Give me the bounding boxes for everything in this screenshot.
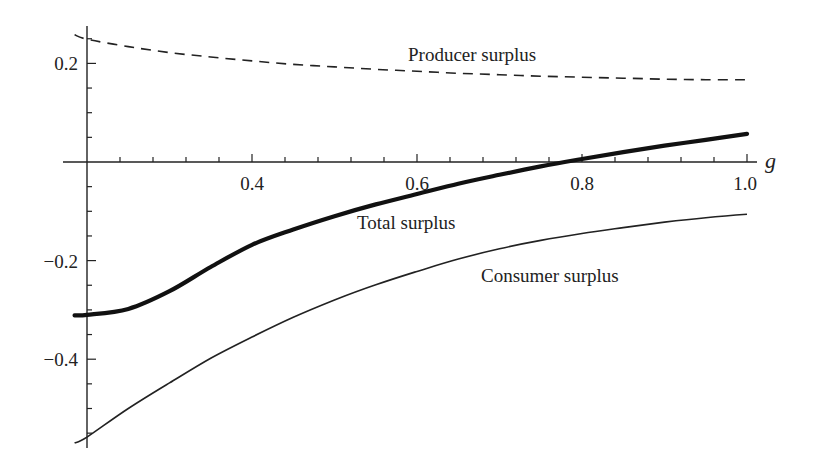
y-tick-label-neg-0.4: −0.4 — [44, 349, 79, 370]
y-tick-label-0.2: 0.2 — [54, 53, 78, 74]
curves — [75, 35, 747, 443]
x-axis-label: g — [765, 148, 776, 173]
surplus-chart: 0.4 0.6 0.8 1.0 g 0.2 −0.2 −0.4 Producer… — [0, 0, 821, 468]
chart-canvas: 0.4 0.6 0.8 1.0 g 0.2 −0.2 −0.4 Producer… — [0, 0, 821, 468]
producer-surplus-label: Producer surplus — [408, 44, 536, 65]
total-surplus-label: Total surplus — [357, 212, 455, 233]
consumer-surplus-label: Consumer surplus — [481, 265, 619, 286]
x-tick-label-0.4: 0.4 — [240, 173, 264, 194]
consumer-surplus-curve — [75, 214, 747, 443]
x-tick-label-0.6: 0.6 — [405, 173, 429, 194]
x-tick-label-0.8: 0.8 — [570, 173, 594, 194]
y-tick-label-neg-0.2: −0.2 — [44, 251, 78, 272]
x-tick-label-1.0: 1.0 — [733, 173, 757, 194]
